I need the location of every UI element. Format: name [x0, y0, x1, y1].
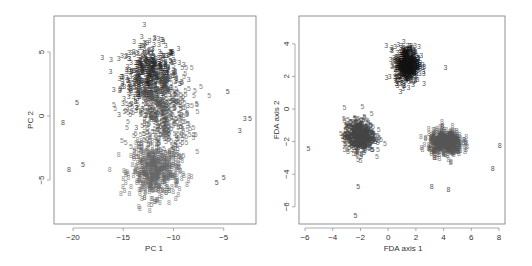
data-point: 8	[170, 172, 174, 179]
data-point: 8	[451, 149, 455, 156]
data-point: 8	[129, 183, 133, 190]
data-point: 3	[177, 45, 181, 52]
outlier-point: 8	[67, 166, 71, 173]
outlier-point: 5	[354, 212, 358, 219]
data-point: 5	[171, 111, 175, 118]
data-point: 5	[155, 70, 159, 77]
data-point: 3	[417, 43, 421, 50]
outlier-point: 5	[248, 115, 252, 122]
pca-y-axis: −505	[37, 49, 50, 184]
data-point: 3	[392, 54, 396, 61]
data-point: 3	[406, 46, 410, 53]
data-point: 5	[361, 103, 365, 110]
data-point: 3	[162, 60, 166, 67]
data-point: 5	[377, 134, 381, 141]
data-point: 3	[152, 41, 156, 48]
data-point: 8	[122, 187, 126, 194]
data-point: 5	[141, 101, 145, 108]
data-point: 3	[112, 86, 116, 93]
y-tick-label: −2	[282, 136, 291, 146]
data-point: 5	[157, 88, 161, 95]
data-point: 5	[346, 146, 350, 153]
data-point: 8	[141, 177, 145, 184]
outlier-point: 5	[81, 161, 85, 168]
data-point: 3	[164, 42, 168, 49]
data-point: 5	[184, 64, 188, 71]
data-point: 5	[371, 146, 375, 153]
data-point: 5	[139, 111, 143, 118]
data-point: 5	[192, 134, 196, 141]
x-tick-label: −4	[328, 233, 338, 242]
outlier-point: 8	[446, 186, 450, 193]
data-point: 8	[177, 152, 181, 159]
data-point: 3	[127, 55, 131, 62]
data-point: 5	[182, 112, 186, 119]
data-point: 5	[124, 107, 128, 114]
data-point: 8	[138, 205, 142, 212]
data-point: 5	[343, 104, 347, 111]
data-point: 8	[459, 141, 463, 148]
data-point: 5	[182, 73, 186, 80]
data-point: 8	[442, 150, 446, 157]
pca-points: 3333333333333333333333333333333333333333…	[61, 21, 252, 215]
data-point: 8	[165, 159, 169, 166]
data-point: 5	[160, 76, 164, 83]
data-point: 5	[136, 101, 140, 108]
data-point: 5	[195, 108, 199, 115]
data-point: 8	[149, 195, 153, 202]
data-point: 5	[185, 139, 189, 146]
data-point: 5	[195, 148, 199, 155]
data-point: 5	[356, 122, 360, 129]
data-point: 8	[155, 186, 159, 193]
data-point: 3	[142, 39, 146, 46]
outlier-point: 3	[238, 127, 242, 134]
data-point: 5	[140, 122, 144, 129]
data-point: 5	[147, 121, 151, 128]
data-point: 8	[138, 167, 142, 174]
data-point: 8	[170, 183, 174, 190]
data-point: 5	[183, 104, 187, 111]
data-point: 5	[181, 125, 185, 132]
data-point: 8	[125, 168, 129, 175]
y-tick-label: −5	[37, 175, 46, 185]
x-tick-label: 6	[469, 233, 474, 242]
data-point: 3	[142, 21, 146, 28]
data-point: 5	[178, 80, 182, 87]
data-point: 5	[139, 86, 143, 93]
x-tick-label: −15	[116, 233, 130, 242]
data-point: 8	[158, 158, 162, 165]
figure: 3333333333333333333333333333333333333333…	[0, 0, 532, 266]
outlier-point: 5	[215, 179, 219, 186]
data-point: 5	[170, 79, 174, 86]
data-point: 5	[366, 119, 370, 126]
data-point: 5	[128, 101, 132, 108]
data-point: 8	[445, 142, 449, 149]
data-point: 8	[108, 166, 112, 173]
data-point: 5	[376, 146, 380, 153]
data-point: 5	[207, 92, 211, 99]
y-tick-label: 5	[37, 49, 46, 54]
data-point: 5	[187, 85, 191, 92]
x-tick-label: −5	[219, 233, 229, 242]
fda-y-axis: −6−4−2024	[282, 41, 295, 211]
data-point: 3	[422, 80, 426, 87]
x-tick-label: −10	[167, 233, 181, 242]
data-point: 8	[164, 151, 168, 158]
data-point: 5	[174, 72, 178, 79]
data-point: 5	[167, 88, 171, 95]
data-point: 5	[142, 115, 146, 122]
data-point: 5	[179, 141, 183, 148]
x-tick-label: 8	[497, 233, 502, 242]
data-point: 8	[149, 180, 153, 187]
x-tick-label: −20	[66, 233, 80, 242]
data-point: 3	[410, 67, 414, 74]
data-point: 8	[155, 197, 159, 204]
data-point: 5	[361, 131, 365, 138]
data-point: 3	[159, 50, 163, 57]
data-point: 8	[441, 143, 445, 150]
data-point: 3	[187, 76, 191, 83]
fda-y-label: FDA axis 2	[272, 100, 281, 139]
data-point: 8	[160, 148, 164, 155]
data-point: 3	[384, 42, 388, 49]
x-tick-label: 4	[441, 233, 446, 242]
